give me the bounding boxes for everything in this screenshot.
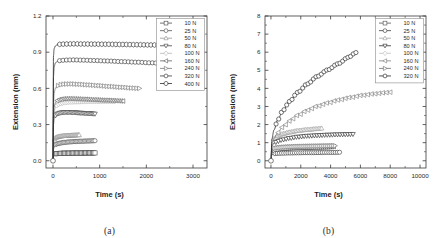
panel-b-chart: 020004000600080001000001234567810 N25 N5… [219,0,438,212]
svg-text:2000: 2000 [294,172,308,179]
svg-text:240 N: 240 N [404,65,419,71]
svg-text:4: 4 [257,85,261,92]
panel-b-plot-stage: 020004000600080001000001234567810 N25 N5… [219,0,438,212]
svg-text:10 N: 10 N [185,20,197,26]
svg-text:160 N: 160 N [185,58,200,64]
svg-text:400 N: 400 N [185,81,200,87]
panel-a-x-axis-title: Time (s) [0,190,219,199]
svg-text:0.9: 0.9 [33,48,42,55]
svg-text:0.3: 0.3 [33,121,42,128]
svg-text:2: 2 [257,121,261,128]
svg-text:100 N: 100 N [185,50,200,56]
svg-text:1000: 1000 [93,172,107,179]
svg-text:8: 8 [257,12,261,19]
svg-text:160 N: 160 N [404,58,419,64]
svg-text:1.2: 1.2 [33,12,42,19]
svg-text:25 N: 25 N [404,28,416,34]
svg-text:50 N: 50 N [185,35,197,41]
svg-text:0: 0 [257,157,261,164]
svg-text:320 N: 320 N [185,73,200,79]
figure-container: 01000200030000.00.30.60.91.210 N25 N50 N… [0,0,438,238]
svg-text:1: 1 [257,139,261,146]
svg-text:0: 0 [269,172,273,179]
svg-text:6000: 6000 [354,172,368,179]
svg-text:5: 5 [257,66,261,73]
panel-b-x-axis-title: Time (s) [219,190,438,199]
svg-text:0.6: 0.6 [33,85,42,92]
svg-text:7: 7 [257,30,261,37]
svg-text:80 N: 80 N [185,43,197,49]
panel-a-caption: (a) [0,226,219,236]
panel-b-caption: (b) [219,226,438,236]
svg-text:80 N: 80 N [404,43,416,49]
panel-b-y-axis-title: Extension (mm) [228,74,237,130]
svg-text:8000: 8000 [383,172,397,179]
panel-b: 020004000600080001000001234567810 N25 N5… [219,0,438,238]
svg-text:240 N: 240 N [185,65,200,71]
svg-text:3: 3 [257,103,261,110]
svg-text:4000: 4000 [324,172,338,179]
svg-text:50 N: 50 N [404,35,416,41]
svg-text:10000: 10000 [411,172,429,179]
svg-text:100 N: 100 N [404,50,419,56]
svg-text:0: 0 [51,172,55,179]
panel-a: 01000200030000.00.30.60.91.210 N25 N50 N… [0,0,219,238]
svg-text:10 N: 10 N [404,20,416,26]
panel-a-plot-stage: 01000200030000.00.30.60.91.210 N25 N50 N… [0,0,219,212]
panel-a-chart: 01000200030000.00.30.60.91.210 N25 N50 N… [0,0,219,212]
svg-text:6: 6 [257,48,261,55]
svg-text:0.0: 0.0 [33,157,42,164]
panel-a-y-axis-title: Extension (mm) [11,74,20,130]
svg-text:3000: 3000 [186,172,200,179]
svg-text:320 N: 320 N [404,73,419,79]
svg-text:25 N: 25 N [185,28,197,34]
svg-text:2000: 2000 [139,172,153,179]
